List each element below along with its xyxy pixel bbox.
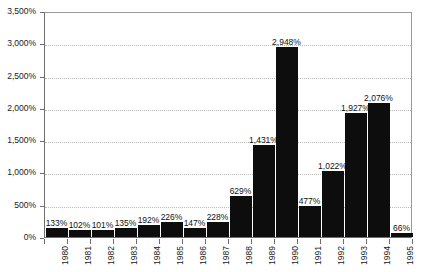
y-axis-tick-label: 1,500% — [0, 135, 36, 145]
x-axis-tick — [343, 239, 344, 244]
bar-value-label: 2,948% — [264, 37, 310, 47]
x-axis-tick — [389, 239, 390, 244]
x-axis-category-label: 1985 — [175, 246, 185, 265]
bar — [69, 230, 91, 237]
y-axis-tick-label: 3,000% — [0, 38, 36, 48]
x-axis-category-label: 1991 — [313, 246, 323, 265]
bar — [92, 230, 114, 237]
x-axis-category-label: 1995 — [405, 246, 415, 265]
x-axis-tick — [67, 239, 68, 244]
bar — [115, 228, 137, 237]
x-axis-tick — [205, 239, 206, 244]
y-axis-tick-label: 500% — [0, 200, 36, 210]
x-axis-tick — [297, 239, 298, 244]
x-axis-tick — [228, 239, 229, 244]
x-axis-tick — [251, 239, 252, 244]
y-axis-tick-label: 1,000% — [0, 167, 36, 177]
x-axis-category-label: 1981 — [83, 246, 93, 265]
y-axis-tick-label: 2,000% — [0, 103, 36, 113]
bar — [138, 225, 160, 237]
y-axis-tick-label: 0% — [0, 232, 36, 242]
gridline — [45, 45, 411, 46]
x-axis-tick — [320, 239, 321, 244]
bar-value-label: 66% — [379, 223, 425, 233]
bar — [207, 222, 229, 237]
bar — [299, 206, 321, 237]
bar — [276, 47, 298, 237]
x-axis-tick — [90, 239, 91, 244]
x-axis-tick — [136, 239, 137, 244]
x-axis-tick — [159, 239, 160, 244]
x-axis-category-label: 1989 — [267, 246, 277, 265]
x-axis-category-label: 1980 — [60, 246, 70, 265]
x-axis-tick — [412, 239, 413, 244]
bar — [230, 196, 252, 237]
x-axis-tick — [366, 239, 367, 244]
x-axis-category-label: 1994 — [382, 246, 392, 265]
x-axis-category-label: 1982 — [106, 246, 116, 265]
bar — [368, 103, 390, 237]
bar — [345, 113, 367, 237]
x-axis-category-label: 1992 — [336, 246, 346, 265]
gridline — [45, 78, 411, 79]
x-axis-category-label: 1984 — [152, 246, 162, 265]
chart-container: 0%500%1,000%1,500%2,000%2,500%3,000%3,50… — [0, 0, 432, 272]
bar — [391, 233, 413, 237]
x-axis-category-label: 1988 — [244, 246, 254, 265]
x-axis-category-label: 1986 — [198, 246, 208, 265]
x-axis-tick — [274, 239, 275, 244]
x-axis-tick — [113, 239, 114, 244]
bar-value-label: 2,076% — [356, 93, 402, 103]
y-axis-tick-label: 3,500% — [0, 6, 36, 16]
bar — [322, 171, 344, 237]
y-axis-tick-label: 2,500% — [0, 71, 36, 81]
x-axis-tick — [182, 239, 183, 244]
x-axis-category-label: 1983 — [129, 246, 139, 265]
plot-area: 133%102%101%135%192%226%147%228%629%1,43… — [44, 12, 412, 238]
x-axis-category-label: 1987 — [221, 246, 231, 265]
x-axis-category-label: 1993 — [359, 246, 369, 265]
bar — [253, 145, 275, 237]
bar — [184, 228, 206, 237]
x-axis-category-label: 1990 — [290, 246, 300, 265]
x-axis-tick — [44, 239, 45, 244]
